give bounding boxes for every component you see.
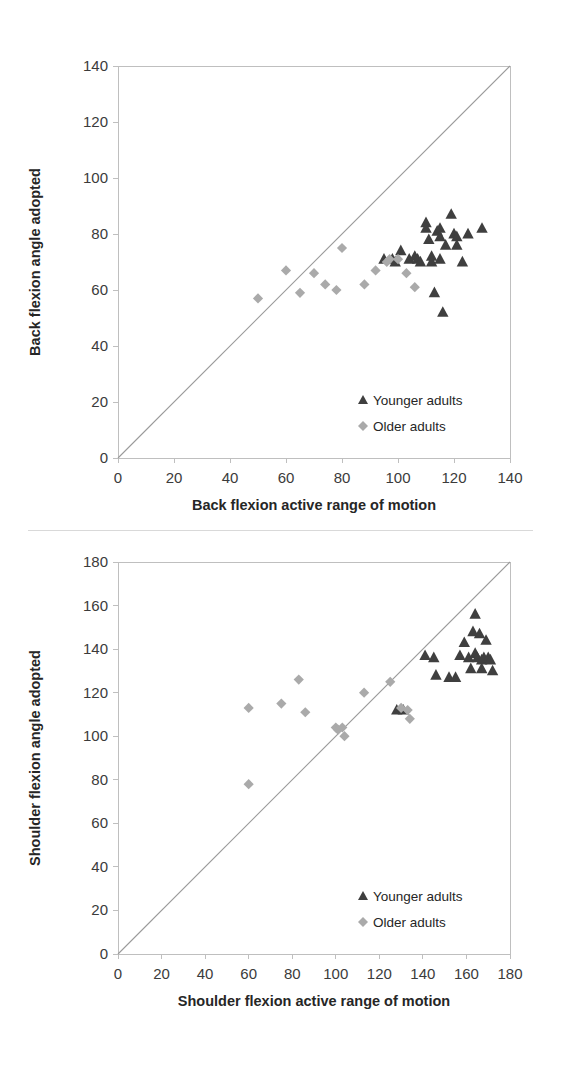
y-axis-tick-label: 60 <box>91 281 108 298</box>
legend-label-older: Older adults <box>373 419 446 434</box>
y-axis-tick-label: 0 <box>100 945 108 962</box>
x-axis-tick-label: 80 <box>284 965 301 982</box>
data-point-older <box>359 688 369 698</box>
chart-panel-back-flexion: 020406080100120140020406080100120140Back… <box>0 0 561 520</box>
data-point-older <box>339 731 349 741</box>
series-diamond <box>253 243 420 304</box>
data-point-younger <box>426 256 437 267</box>
back-flexion-scatter-plot: 020406080100120140020406080100120140Back… <box>0 0 561 520</box>
y-axis-tick-label: 120 <box>83 113 108 130</box>
data-point-older <box>320 279 330 289</box>
data-point-younger <box>437 306 448 317</box>
y-axis-tick-label: 100 <box>83 727 108 744</box>
data-point-older <box>359 279 369 289</box>
data-point-younger <box>465 663 476 674</box>
data-point-older <box>244 703 254 713</box>
x-axis-tick-label: 140 <box>410 965 435 982</box>
y-axis-title: Back flexion angle adopted <box>27 168 43 356</box>
data-point-younger <box>428 652 439 663</box>
x-axis-tick-label: 160 <box>454 965 479 982</box>
x-axis-tick-label: 120 <box>367 965 392 982</box>
data-point-older <box>371 265 381 275</box>
legend: Younger adultsOlder adults <box>358 393 463 434</box>
data-point-older <box>295 288 305 298</box>
chart-panel-shoulder-flexion: 0204060801001201401601800204060801001201… <box>0 520 561 1070</box>
x-axis-tick-label: 40 <box>197 965 214 982</box>
data-point-older <box>253 293 263 303</box>
series-diamond <box>244 675 415 790</box>
data-point-younger <box>487 665 498 676</box>
x-axis-tick-label: 140 <box>497 469 522 486</box>
y-axis-tick-label: 180 <box>83 553 108 570</box>
y-axis-tick-label: 60 <box>91 814 108 831</box>
legend-marker-younger-icon <box>358 891 368 900</box>
series-triangle <box>378 208 487 317</box>
y-axis-tick-label: 120 <box>83 684 108 701</box>
data-point-younger <box>445 208 456 219</box>
x-axis-tick-label: 120 <box>441 469 466 486</box>
x-axis-tick-label: 80 <box>334 469 351 486</box>
data-point-younger <box>459 636 470 647</box>
data-point-younger <box>469 608 480 619</box>
y-axis-tick-label: 0 <box>100 449 108 466</box>
data-point-younger <box>434 253 445 264</box>
figure-container: 020406080100120140020406080100120140Back… <box>0 0 561 1070</box>
legend-marker-older-icon <box>358 421 368 431</box>
data-point-older <box>244 779 254 789</box>
y-axis-tick-label: 40 <box>91 337 108 354</box>
data-point-younger <box>454 649 465 660</box>
y-axis-tick-label: 20 <box>91 393 108 410</box>
x-axis-title: Back flexion active range of motion <box>192 497 436 513</box>
data-point-younger <box>430 669 441 680</box>
legend-label-younger: Younger adults <box>373 393 463 408</box>
data-point-older <box>410 282 420 292</box>
legend-label-younger: Younger adults <box>373 889 463 904</box>
x-axis-tick-label: 20 <box>166 469 183 486</box>
x-axis-tick-label: 20 <box>153 965 170 982</box>
y-axis-tick-label: 40 <box>91 858 108 875</box>
x-axis-tick-label: 40 <box>222 469 239 486</box>
data-point-older <box>401 268 411 278</box>
x-axis-title: Shoulder flexion active range of motion <box>178 993 450 1009</box>
data-point-older <box>331 285 341 295</box>
y-axis-tick-label: 140 <box>83 640 108 657</box>
data-point-older <box>405 714 415 724</box>
x-axis-tick-label: 60 <box>278 469 295 486</box>
data-point-younger <box>420 222 431 233</box>
data-point-older <box>300 707 310 717</box>
data-point-older <box>276 698 286 708</box>
y-axis-tick-label: 20 <box>91 901 108 918</box>
x-axis-tick-label: 0 <box>114 469 122 486</box>
data-point-younger <box>457 256 468 267</box>
legend: Younger adultsOlder adults <box>358 889 463 930</box>
x-axis-tick-label: 0 <box>114 965 122 982</box>
data-point-younger <box>476 222 487 233</box>
x-axis-tick-label: 180 <box>497 965 522 982</box>
data-point-younger <box>462 228 473 239</box>
data-point-older <box>281 265 291 275</box>
x-axis-tick-label: 100 <box>385 469 410 486</box>
data-point-older <box>309 268 319 278</box>
data-point-older <box>294 675 304 685</box>
data-point-older <box>337 243 347 253</box>
legend-marker-younger-icon <box>358 395 368 404</box>
shoulder-flexion-scatter-plot: 0204060801001201401601800204060801001201… <box>0 520 561 1070</box>
y-axis-tick-label: 140 <box>83 57 108 74</box>
legend-marker-older-icon <box>358 917 368 927</box>
y-axis-tick-label: 100 <box>83 169 108 186</box>
data-point-younger <box>395 245 406 256</box>
y-axis-tick-label: 80 <box>91 771 108 788</box>
data-point-younger <box>429 287 440 298</box>
x-axis-tick-label: 100 <box>323 965 348 982</box>
y-axis-title: Shoulder flexion angle adopted <box>27 650 43 866</box>
y-axis-tick-label: 160 <box>83 597 108 614</box>
x-axis-tick-label: 60 <box>240 965 257 982</box>
y-axis-tick-label: 80 <box>91 225 108 242</box>
legend-label-older: Older adults <box>373 915 446 930</box>
series-triangle <box>391 608 498 714</box>
